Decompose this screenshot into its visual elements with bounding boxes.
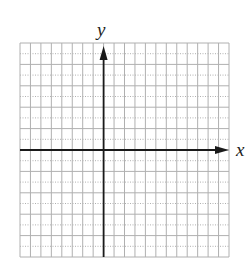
y-axis-label: y — [97, 20, 105, 39]
x-axis-label: x — [236, 140, 244, 159]
coordinate-plane — [0, 0, 251, 268]
x-axis-arrowhead-icon — [215, 146, 229, 154]
y-axis-arrowhead-icon — [100, 46, 108, 60]
